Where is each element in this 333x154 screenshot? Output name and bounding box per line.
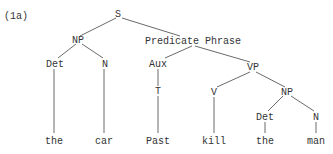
leaf-kill: kill [202, 137, 226, 147]
node-det-subject: Det [46, 60, 64, 70]
node-aux: Aux [149, 60, 167, 70]
node-det-object: Det [256, 113, 274, 123]
node-np-object: NP [281, 88, 293, 98]
node-t: T [155, 87, 161, 97]
leaf-the-1: the [45, 137, 63, 147]
node-v: V [211, 88, 217, 98]
leaf-the-2: the [256, 137, 274, 147]
leaf-car: car [95, 137, 113, 147]
example-label: (1a) [4, 12, 28, 22]
node-predicate-phrase: Predicate Phrase [145, 37, 241, 47]
node-n-subject: N [102, 60, 108, 70]
leaf-man: man [307, 137, 325, 147]
leaf-past: Past [146, 137, 170, 147]
node-vp: VP [247, 63, 259, 73]
node-n-object: N [313, 113, 319, 123]
tree-edges [0, 0, 333, 154]
node-np-subject: NP [72, 36, 84, 46]
node-s: S [115, 10, 121, 20]
